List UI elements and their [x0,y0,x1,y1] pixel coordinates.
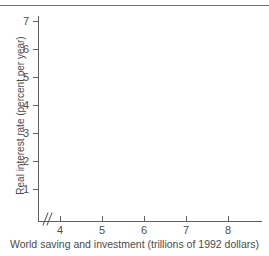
x-tick-label: 7 [176,224,196,236]
x-tick-label: 5 [92,224,112,236]
x-tick-mark [102,216,103,222]
y-tick-mark [33,105,39,106]
y-tick-mark [33,77,39,78]
x-tick-mark [186,216,187,222]
x-tick-label: 4 [50,224,70,236]
y-axis-title: Real interest rate (percent per year) [15,11,26,221]
x-tick-mark [144,216,145,222]
chart-figure: 7 6 5 4 3 2 1 4 5 6 7 8 Real interest ra… [0,0,269,256]
y-tick-mark [33,49,39,50]
y-tick-mark [33,161,39,162]
plot-area [39,16,262,221]
x-tick-label: 6 [134,224,154,236]
x-tick-label: 8 [218,224,238,236]
y-axis-line [38,16,39,222]
x-tick-mark [60,216,61,222]
y-tick-mark [33,133,39,134]
x-tick-mark [228,216,229,222]
y-tick-mark [33,189,39,190]
y-tick-mark [33,21,39,22]
x-axis-title: World saving and investment (trillions o… [0,238,269,250]
